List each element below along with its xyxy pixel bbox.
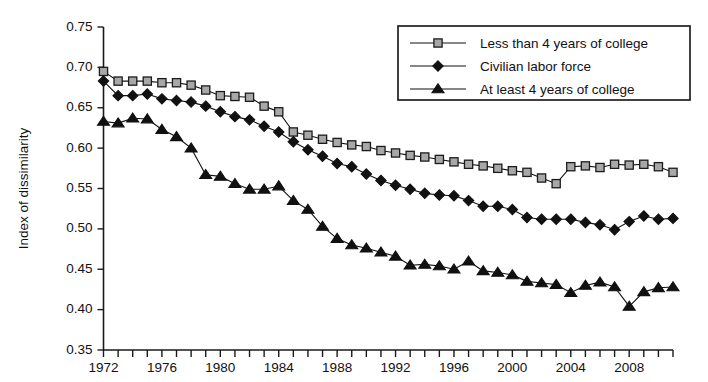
data-point-square xyxy=(172,79,180,87)
data-point-diamond xyxy=(215,107,225,117)
data-point-diamond xyxy=(171,95,181,105)
data-point-square xyxy=(391,149,399,157)
data-point-square xyxy=(304,131,312,139)
data-point-square xyxy=(231,92,239,100)
data-point-square xyxy=(450,158,458,166)
data-point-diamond xyxy=(201,101,211,111)
y-axis-tick-label: 0.60 xyxy=(66,140,92,155)
data-point-square xyxy=(275,108,283,116)
data-point-square xyxy=(640,160,648,168)
legend-label: At least 4 years of college xyxy=(480,82,635,97)
data-point-diamond xyxy=(580,217,590,227)
data-point-diamond xyxy=(653,214,663,224)
data-point-square xyxy=(596,163,604,171)
y-axis-tick-label: 0.45 xyxy=(66,261,92,276)
y-axis-tick-label: 0.50 xyxy=(66,220,92,235)
x-axis-tick-label: 2000 xyxy=(497,360,527,375)
data-point-square xyxy=(143,77,151,85)
legend-label: Less than 4 years of college xyxy=(480,36,648,51)
data-point-diamond xyxy=(624,216,634,226)
data-point-triangle xyxy=(273,181,285,190)
data-point-diamond xyxy=(405,184,415,194)
data-point-diamond xyxy=(317,151,327,161)
data-point-square xyxy=(537,174,545,182)
y-axis-tick-label: 0.75 xyxy=(66,19,92,34)
data-point-diamond xyxy=(434,190,444,200)
data-point-diamond xyxy=(303,145,313,155)
y-axis-tick-label: 0.40 xyxy=(66,301,92,316)
data-point-diamond xyxy=(347,161,357,171)
data-point-square xyxy=(567,163,575,171)
data-point-square xyxy=(523,168,531,176)
data-point-square xyxy=(406,151,414,159)
data-point-triangle xyxy=(244,184,256,193)
data-point-triangle xyxy=(98,116,110,125)
x-axis-tick-label: 2004 xyxy=(556,360,587,375)
data-point-triangle xyxy=(463,256,475,265)
data-point-triangle xyxy=(317,221,329,230)
data-point-diamond xyxy=(536,214,546,224)
y-axis-tick-label: 0.70 xyxy=(66,59,92,74)
x-axis-tick-label: 1996 xyxy=(439,360,469,375)
data-point-triangle xyxy=(521,276,533,285)
data-point-square xyxy=(245,93,253,101)
y-axis-tick-label: 0.55 xyxy=(66,180,92,195)
data-point-diamond xyxy=(244,115,254,125)
data-point-square xyxy=(99,67,107,75)
data-point-square xyxy=(669,168,677,176)
data-point-square xyxy=(362,142,370,150)
data-point-diamond xyxy=(609,224,619,234)
data-point-square xyxy=(508,167,516,175)
data-point-triangle xyxy=(229,178,241,187)
data-point-diamond xyxy=(507,204,517,214)
y-axis-tick-label: 0.65 xyxy=(66,99,92,114)
data-point-square xyxy=(216,92,224,100)
data-point-square xyxy=(377,146,385,154)
y-axis-tick-label: 0.35 xyxy=(66,342,92,357)
data-point-square xyxy=(435,155,443,163)
data-point-triangle xyxy=(609,282,621,291)
data-point-square xyxy=(318,135,326,143)
y-axis: 0.350.400.450.500.550.600.650.700.75 xyxy=(66,19,103,357)
data-point-triangle xyxy=(302,204,314,213)
data-point-diamond xyxy=(551,214,561,224)
data-point-diamond xyxy=(522,212,532,222)
data-point-triangle xyxy=(667,282,679,291)
data-point-square xyxy=(610,160,618,168)
x-axis-tick-label: 1984 xyxy=(264,360,295,375)
chart-svg: 0.350.400.450.500.550.600.650.700.75 197… xyxy=(0,0,708,382)
data-point-square xyxy=(158,79,166,87)
data-point-diamond xyxy=(595,220,605,230)
data-point-square xyxy=(625,161,633,169)
data-point-triangle xyxy=(200,170,212,179)
data-point-triangle xyxy=(594,277,606,286)
data-point-diamond xyxy=(288,136,298,146)
x-axis-tick-label: 1976 xyxy=(147,360,177,375)
data-point-diamond xyxy=(493,201,503,211)
data-point-diamond xyxy=(639,211,649,221)
data-point-diamond xyxy=(157,94,167,104)
data-point-diamond xyxy=(449,191,459,201)
data-point-square xyxy=(421,153,429,161)
data-point-triangle xyxy=(477,266,489,275)
data-point-triangle xyxy=(565,287,577,296)
data-point-diamond xyxy=(376,175,386,185)
data-point-square xyxy=(494,164,502,172)
data-point-square xyxy=(581,162,589,170)
series-triangle xyxy=(98,113,680,310)
x-axis-tick-label: 1980 xyxy=(205,360,235,375)
x-axis-tick-label: 1972 xyxy=(88,360,118,375)
data-point-diamond xyxy=(259,121,269,131)
data-point-diamond xyxy=(230,111,240,121)
data-point-diamond xyxy=(361,169,371,179)
data-point-diamond xyxy=(566,214,576,224)
chart-legend: Less than 4 years of collegeCivilian lab… xyxy=(398,26,690,100)
data-point-diamond xyxy=(128,90,138,100)
data-point-triangle xyxy=(127,113,139,122)
data-point-square xyxy=(260,102,268,110)
x-axis: 1972197619801984198819921996200020042008 xyxy=(88,350,673,375)
data-point-square xyxy=(333,138,341,146)
data-point-square xyxy=(129,77,137,85)
data-point-square xyxy=(434,39,442,47)
data-point-diamond xyxy=(142,89,152,99)
